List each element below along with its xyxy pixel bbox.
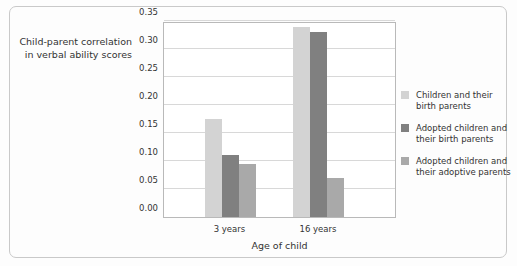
chart-figure: Child-parent correlation in verbal abili…: [0, 0, 517, 266]
legend-label-line2: their birth parents: [416, 134, 513, 145]
bar: [327, 178, 344, 217]
legend-label-line2: their adoptive parents: [416, 167, 513, 178]
legend-item: Children and theirbirth parents: [401, 90, 513, 112]
bar: [239, 164, 256, 217]
plot-area: [163, 22, 396, 218]
legend-label: Adopted children andtheir birth parents: [416, 123, 513, 145]
gridline: [164, 188, 395, 189]
gridline: [164, 20, 395, 21]
bar: [293, 27, 310, 217]
y-axis-title: Child-parent correlation in verbal abili…: [14, 36, 132, 61]
y-axis-tick-label: 0.30: [124, 35, 158, 45]
x-axis-title: Age of child: [163, 240, 396, 251]
y-axis-tick-label: 0.35: [124, 7, 158, 17]
legend-item: Adopted children andtheir adoptive paren…: [401, 156, 513, 178]
legend-label: Children and theirbirth parents: [416, 90, 513, 112]
legend-label-line2: birth parents: [416, 101, 513, 112]
y-axis-tick-label: 0.05: [124, 175, 158, 185]
gridline: [164, 160, 395, 161]
y-axis-title-line1: Child-parent correlation: [19, 36, 132, 47]
y-axis-tick-label: 0.10: [124, 147, 158, 157]
legend-item: Adopted children andtheir birth parents: [401, 123, 513, 145]
legend-label-line1: Children and their: [416, 90, 493, 100]
legend-swatch: [401, 157, 409, 165]
y-axis-tick-label: 0.00: [124, 203, 158, 213]
legend-label-line1: Adopted children and: [416, 156, 507, 166]
gridline: [164, 76, 395, 77]
bar: [205, 119, 222, 217]
x-axis-tick-label: 16 years: [283, 224, 353, 234]
legend-label-line1: Adopted children and: [416, 123, 507, 133]
chart-legend: Children and theirbirth parentsAdopted c…: [401, 90, 513, 189]
gridline: [164, 104, 395, 105]
y-axis-tick-label: 0.20: [124, 91, 158, 101]
gridline: [164, 132, 395, 133]
legend-label: Adopted children andtheir adoptive paren…: [416, 156, 513, 178]
y-axis-tick-labels: 0.000.050.100.150.200.250.300.35: [120, 22, 158, 218]
y-axis-tick-label: 0.25: [124, 63, 158, 73]
x-axis-tick-label: 3 years: [194, 224, 264, 234]
legend-swatch: [401, 124, 409, 132]
gridline: [164, 48, 395, 49]
y-axis-title-line2: in verbal ability scores: [14, 49, 132, 62]
legend-swatch: [401, 91, 409, 99]
bar: [222, 155, 239, 217]
y-axis-tick-label: 0.15: [124, 119, 158, 129]
bar: [310, 32, 327, 217]
